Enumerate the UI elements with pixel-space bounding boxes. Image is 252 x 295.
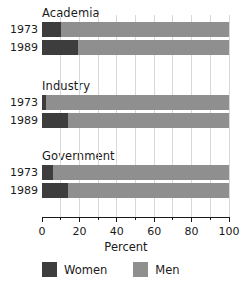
x-tick-0 (42, 217, 43, 222)
x-tick-label-100: 100 (214, 225, 244, 238)
legend-label-women: Women (64, 263, 107, 277)
bar-row (42, 183, 229, 198)
x-axis-title: Percent (0, 240, 252, 254)
x-minor-tick-70 (172, 217, 173, 220)
legend-swatch-men (133, 262, 148, 277)
legend-label-men: Men (155, 263, 179, 277)
legend-item-women: Women (42, 262, 107, 277)
bar-segment-women (42, 165, 53, 180)
x-minor-tick-10 (60, 217, 61, 220)
bar-segment-men (53, 165, 229, 180)
plot-area (42, 15, 229, 217)
x-tick-label-20: 20 (64, 225, 94, 238)
legend-swatch-women (42, 262, 57, 277)
x-tick-label-40: 40 (102, 225, 132, 238)
bar-segment-men (68, 183, 229, 198)
year-label: 1973 (4, 23, 38, 36)
x-tick-40 (116, 217, 117, 222)
bar-segment-men (78, 40, 229, 55)
year-label: 1989 (4, 184, 38, 197)
x-tick-20 (79, 217, 80, 222)
year-label: 1973 (4, 96, 38, 109)
x-axis (42, 217, 229, 225)
x-tick-100 (229, 217, 230, 222)
legend-item-men: Men (133, 262, 179, 277)
bar-row (42, 95, 229, 110)
bar-segment-women (42, 40, 78, 55)
bar-row (42, 113, 229, 128)
x-tick-label-0: 0 (27, 225, 57, 238)
x-tick-80 (191, 217, 192, 222)
bar-row (42, 165, 229, 180)
bar-segment-women (42, 183, 68, 198)
x-tick-60 (154, 217, 155, 222)
year-label: 1989 (4, 114, 38, 127)
x-minor-tick-30 (98, 217, 99, 220)
bar-segment-men (46, 95, 229, 110)
bar-row (42, 40, 229, 55)
chart-legend: Women Men (42, 262, 180, 277)
bar-row (42, 22, 229, 37)
x-minor-tick-90 (210, 217, 211, 220)
bar-segment-women (42, 113, 68, 128)
x-tick-label-60: 60 (139, 225, 169, 238)
year-label: 1989 (4, 41, 38, 54)
stacked-bar-chart: Academia Industry Government 19731989197… (0, 0, 252, 295)
x-tick-label-80: 80 (177, 225, 207, 238)
year-axis-labels: 197319891973198919731989 (0, 0, 38, 215)
bar-segment-men (61, 22, 229, 37)
bar-segment-women (42, 22, 61, 37)
year-label: 1973 (4, 166, 38, 179)
x-minor-tick-50 (135, 217, 136, 220)
bar-segment-men (68, 113, 229, 128)
